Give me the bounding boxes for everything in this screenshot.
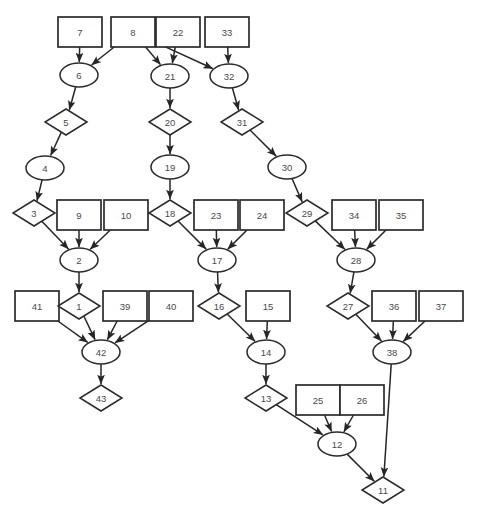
edge-5-to-4 (51, 132, 62, 155)
node-7[interactable]: 7 (58, 17, 102, 47)
node-38[interactable]: 38 (373, 340, 411, 364)
diamond-shape[interactable] (198, 293, 240, 319)
node-18[interactable]: 18 (149, 200, 191, 226)
rectangle-shape[interactable] (246, 291, 290, 321)
rectangle-shape[interactable] (240, 200, 284, 230)
edge-32-to-31 (232, 88, 238, 110)
node-12[interactable]: 12 (318, 432, 356, 456)
node-37[interactable]: 37 (419, 291, 463, 321)
edge-12-to-11 (347, 454, 374, 481)
node-8[interactable]: 8 (111, 17, 155, 47)
ellipse-shape[interactable] (82, 340, 120, 364)
node-33[interactable]: 33 (205, 17, 249, 47)
node-6[interactable]: 6 (60, 63, 98, 87)
node-16[interactable]: 16 (198, 293, 240, 319)
node-27[interactable]: 27 (327, 293, 369, 319)
ellipse-shape[interactable] (198, 248, 236, 272)
diamond-shape[interactable] (221, 109, 263, 135)
node-23[interactable]: 23 (194, 200, 238, 230)
rectangle-shape[interactable] (111, 17, 155, 47)
ellipse-shape[interactable] (26, 156, 64, 180)
node-20[interactable]: 20 (149, 109, 191, 135)
edge-26-to-12 (344, 415, 354, 432)
node-5[interactable]: 5 (45, 109, 87, 135)
rectangle-shape[interactable] (419, 291, 463, 321)
node-14[interactable]: 14 (247, 340, 285, 364)
edge-40-to-42 (115, 320, 149, 342)
node-36[interactable]: 36 (372, 291, 416, 321)
node-39[interactable]: 39 (103, 291, 147, 321)
rectangle-shape[interactable] (58, 17, 102, 47)
node-31[interactable]: 31 (221, 109, 263, 135)
rectangle-shape[interactable] (379, 200, 423, 230)
edge-38-to-11 (384, 364, 391, 477)
node-21[interactable]: 21 (151, 64, 189, 88)
rectangle-shape[interactable] (340, 385, 384, 415)
node-29[interactable]: 29 (286, 200, 328, 226)
diamond-shape[interactable] (286, 200, 328, 226)
rectangle-shape[interactable] (15, 291, 59, 321)
node-28[interactable]: 28 (337, 248, 375, 272)
ellipse-shape[interactable] (337, 248, 375, 272)
node-42[interactable]: 42 (82, 340, 120, 364)
diamond-shape[interactable] (45, 109, 87, 135)
node-25[interactable]: 25 (296, 385, 340, 415)
node-35[interactable]: 35 (379, 200, 423, 230)
diamond-shape[interactable] (362, 477, 404, 503)
rectangle-shape[interactable] (156, 17, 200, 47)
diamond-shape[interactable] (327, 293, 369, 319)
node-41[interactable]: 41 (15, 291, 59, 321)
diamond-shape[interactable] (149, 109, 191, 135)
ellipse-shape[interactable] (151, 64, 189, 88)
diamond-shape[interactable] (13, 200, 55, 226)
edge-8-to-6 (92, 47, 115, 65)
nodes-layer: 7822336213252031419303910182324293435217… (13, 17, 463, 503)
diamond-shape[interactable] (149, 200, 191, 226)
ellipse-shape[interactable] (318, 432, 356, 456)
rectangle-shape[interactable] (149, 291, 193, 321)
ellipse-shape[interactable] (268, 155, 306, 179)
node-19[interactable]: 19 (151, 155, 189, 179)
ellipse-shape[interactable] (60, 63, 98, 87)
diagram-canvas: 7822336213252031419303910182324293435217… (0, 0, 477, 520)
rectangle-shape[interactable] (104, 200, 148, 230)
ellipse-shape[interactable] (151, 155, 189, 179)
node-9[interactable]: 9 (57, 200, 101, 230)
diamond-shape[interactable] (80, 385, 122, 411)
diamond-shape[interactable] (58, 293, 100, 319)
edge-10-to-2 (90, 230, 110, 249)
edge-15-to-14 (267, 321, 268, 339)
node-32[interactable]: 32 (210, 64, 248, 88)
node-1[interactable]: 1 (58, 293, 100, 319)
ellipse-shape[interactable] (60, 248, 98, 272)
node-15[interactable]: 15 (246, 291, 290, 321)
node-17[interactable]: 17 (198, 248, 236, 272)
node-4[interactable]: 4 (26, 156, 64, 180)
edge-34-to-28 (355, 230, 356, 247)
ellipse-shape[interactable] (210, 64, 248, 88)
rectangle-shape[interactable] (296, 385, 340, 415)
rectangle-shape[interactable] (205, 17, 249, 47)
node-34[interactable]: 34 (332, 200, 376, 230)
edge-25-to-12 (324, 415, 331, 432)
rectangle-shape[interactable] (372, 291, 416, 321)
rectangle-shape[interactable] (194, 200, 238, 230)
node-11[interactable]: 11 (362, 477, 404, 503)
node-2[interactable]: 2 (60, 248, 98, 272)
flowchart-graph: 7822336213252031419303910182324293435217… (0, 0, 477, 520)
rectangle-shape[interactable] (57, 200, 101, 230)
rectangle-shape[interactable] (103, 291, 147, 321)
node-40[interactable]: 40 (149, 291, 193, 321)
node-26[interactable]: 26 (340, 385, 384, 415)
rectangle-shape[interactable] (332, 200, 376, 230)
node-3[interactable]: 3 (13, 200, 55, 226)
node-30[interactable]: 30 (268, 155, 306, 179)
node-10[interactable]: 10 (104, 200, 148, 230)
node-43[interactable]: 43 (80, 385, 122, 411)
ellipse-shape[interactable] (247, 340, 285, 364)
node-22[interactable]: 22 (156, 17, 200, 47)
node-24[interactable]: 24 (240, 200, 284, 230)
edge-4-to-3 (37, 180, 42, 201)
ellipse-shape[interactable] (373, 340, 411, 364)
edge-31-to-30 (250, 130, 276, 156)
